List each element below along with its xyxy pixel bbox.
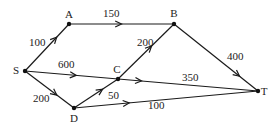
node-label-d: D — [70, 112, 78, 124]
node-s — [23, 69, 27, 73]
node-label-t: T — [261, 85, 268, 97]
network-diagram: 10015040020060035020050100SABCDT — [0, 0, 279, 128]
edge-d-t — [74, 91, 258, 108]
edge-weight-d-c: 50 — [108, 89, 120, 101]
edge-weight-s-t: 600 — [58, 58, 75, 70]
node-b — [172, 22, 176, 26]
node-a — [67, 22, 71, 26]
edge-weight-c-b: 200 — [137, 36, 154, 48]
node-label-a: A — [65, 8, 73, 20]
node-c — [116, 77, 120, 81]
arrow-icon-d-c — [96, 89, 103, 95]
edge-weight-b-t: 400 — [227, 50, 244, 62]
node-t — [256, 89, 260, 93]
edge-weight-a-b: 150 — [103, 7, 120, 19]
node-label-c: C — [113, 63, 120, 75]
edge-weight-s-d: 200 — [33, 92, 50, 104]
edge-weight-s-a: 100 — [29, 36, 46, 48]
edge-weight-d-t: 100 — [148, 99, 165, 111]
node-label-s: S — [13, 64, 19, 76]
node-d — [72, 106, 76, 110]
edge-weight-s-t-2: 350 — [182, 71, 199, 83]
node-label-b: B — [170, 7, 177, 19]
edge-c-b — [118, 24, 174, 79]
